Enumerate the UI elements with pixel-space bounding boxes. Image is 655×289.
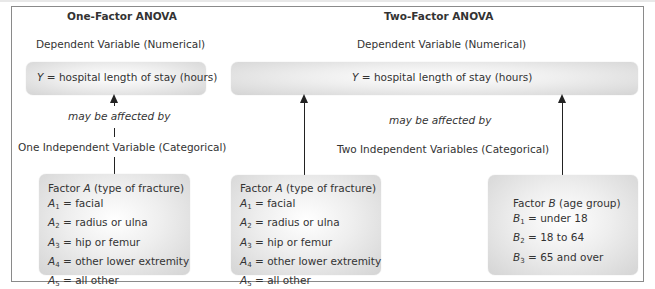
one-factor-dependent-label: Dependent Variable (Numerical) <box>36 38 205 50</box>
factor-a-level: A4 = other lower extremity <box>48 254 189 273</box>
factor-a-heading: Factor A (type of fracture) <box>240 181 381 196</box>
two-factor-dependent-label: Dependent Variable (Numerical) <box>357 38 526 50</box>
factor-a-heading: Factor A (type of fracture) <box>48 181 189 196</box>
y-definition: = hospital length of stay (hours) <box>43 71 217 83</box>
two-factor-y-box: Y = hospital length of stay (hours) <box>231 62 638 95</box>
two-factor-factor-b-box: Factor B (age group) B1 = under 18 B2 = … <box>488 175 638 275</box>
one-factor-title: One-Factor ANOVA <box>67 10 177 22</box>
factor-b-level: B3 = 65 and over <box>513 250 621 269</box>
factor-a-level: A1 = facial <box>240 196 381 215</box>
one-factor-arrow-line-bottom <box>114 157 115 174</box>
two-factor-factor-a-box: Factor A (type of fracture) A1 = facial … <box>231 175 381 275</box>
factor-a-level: A3 = hip or femur <box>48 235 189 254</box>
factor-b-level: B1 = under 18 <box>513 211 621 230</box>
factor-b-heading: Factor B (age group) <box>513 196 621 211</box>
factor-a-level: A3 = hip or femur <box>240 235 381 254</box>
one-factor-relation: may be affected by <box>68 110 170 122</box>
two-factor-y-text: Y = hospital length of stay (hours) <box>352 71 532 83</box>
top-divider <box>0 0 655 2</box>
factor-a-level: A4 = other lower extremity <box>240 254 381 273</box>
factor-a-list: Factor A (type of fracture) A1 = facial … <box>48 181 189 289</box>
y-definition: = hospital length of stay (hours) <box>358 71 532 83</box>
two-factor-arrow-line-b <box>562 100 563 175</box>
factor-a-list: Factor A (type of fracture) A1 = facial … <box>240 181 381 289</box>
one-factor-y-box: Y = hospital length of stay (hours) <box>26 62 206 95</box>
one-factor-independent-label: One Independent Variable (Categorical) <box>18 141 226 153</box>
factor-a-level: A5 = all other <box>240 273 381 289</box>
factor-a-level: A5 = all other <box>48 273 189 289</box>
factor-b-list: Factor B (age group) B1 = under 18 B2 = … <box>513 196 621 269</box>
factor-a-level: A1 = facial <box>48 196 189 215</box>
factor-a-level: A2 = radius or ulna <box>48 215 189 234</box>
two-factor-arrow-line-a <box>304 100 305 175</box>
one-factor-arrow-line-mid <box>114 128 115 137</box>
one-factor-y-text: Y = hospital length of stay (hours) <box>37 71 217 83</box>
two-factor-title: Two-Factor ANOVA <box>384 10 493 22</box>
two-factor-relation: may be affected by <box>389 114 491 126</box>
factor-a-level: A2 = radius or ulna <box>240 215 381 234</box>
two-factor-independent-label: Two Independent Variables (Categorical) <box>337 143 549 155</box>
one-factor-factor-a-box: Factor A (type of fracture) A1 = facial … <box>39 174 190 275</box>
one-factor-arrow-line-top <box>114 100 115 106</box>
factor-b-level: B2 = 18 to 64 <box>513 230 621 249</box>
